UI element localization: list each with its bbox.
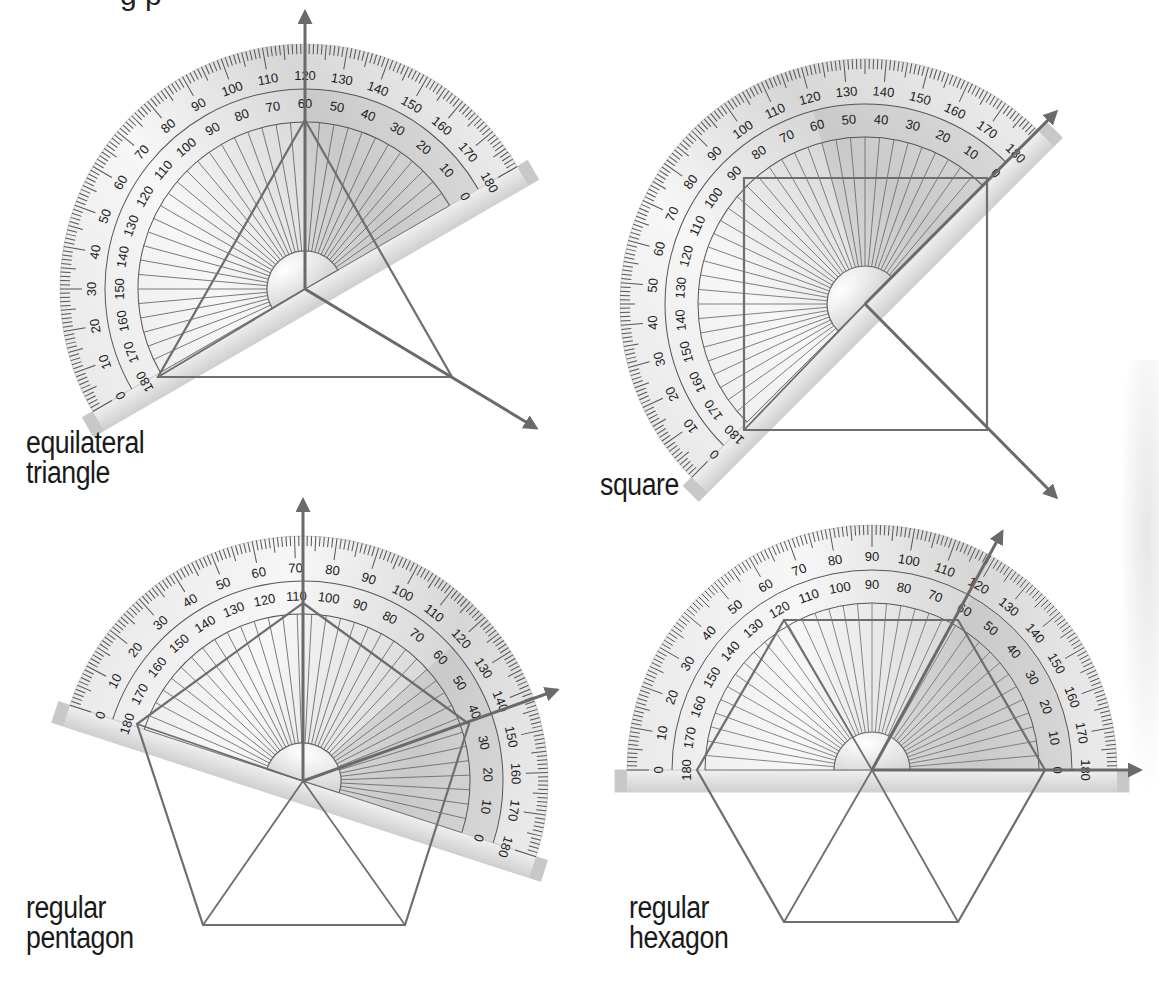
arrow-ray-b bbox=[865, 304, 1056, 497]
center-spoke bbox=[203, 781, 303, 925]
outer-scale-label: 50 bbox=[645, 278, 661, 294]
panel-regular-hexagon: 0102030405060708090100110120130140150160… bbox=[615, 525, 1140, 922]
label-line: equilateral bbox=[26, 428, 144, 458]
protractor: 0102030405060708090100110120130140150160… bbox=[510, 0, 1062, 501]
protractor: 0102030405060708090100110120130140150160… bbox=[0, 0, 539, 437]
label-equilateral-triangle: equilateraltriangle bbox=[26, 428, 144, 488]
inner-scale-label: 100 bbox=[317, 589, 341, 607]
outer-scale-label: 160 bbox=[508, 762, 524, 784]
label-line: triangle bbox=[26, 458, 144, 488]
inner-scale-label: 70 bbox=[264, 98, 281, 115]
paper-texture bbox=[1119, 360, 1159, 800]
panel-square: 0102030405060708090100110120130140150160… bbox=[510, 0, 1062, 501]
label-regular-pentagon: regularpentagon bbox=[26, 893, 134, 953]
inner-scale-label: 180 bbox=[679, 759, 694, 781]
outer-scale-label: 60 bbox=[250, 564, 267, 582]
outer-scale-label: 20 bbox=[87, 318, 104, 335]
outer-scale-label: 30 bbox=[84, 282, 99, 296]
outer-scale-label: 80 bbox=[827, 552, 844, 569]
protractor: 0102030405060708090100110120130140150160… bbox=[52, 469, 623, 882]
outer-scale-label: 90 bbox=[865, 549, 879, 564]
inner-scale-label: 40 bbox=[873, 112, 889, 128]
inner-scale-label: 50 bbox=[841, 112, 857, 128]
inner-scale-label: 150 bbox=[112, 278, 127, 300]
outer-scale-label: 140 bbox=[872, 83, 895, 100]
panel-regular-pentagon: 0102030405060708090100110120130140150160… bbox=[52, 469, 623, 925]
outer-scale-label: 130 bbox=[835, 83, 858, 100]
label-line: hexagon bbox=[629, 923, 728, 953]
outer-scale-label: 10 bbox=[654, 725, 671, 742]
label-line: pentagon bbox=[26, 923, 134, 953]
center-spoke bbox=[872, 770, 958, 922]
panel-equilateral-triangle: 0102030405060708090100110120130140150160… bbox=[0, 0, 539, 437]
inner-scale-label: 130 bbox=[672, 276, 689, 299]
outer-scale-label: 40 bbox=[645, 315, 661, 331]
center-spoke bbox=[784, 770, 872, 922]
inner-scale-label: 10 bbox=[478, 799, 495, 815]
inner-scale-label: 30 bbox=[475, 734, 493, 751]
inner-scale-label: 80 bbox=[896, 579, 913, 596]
inner-scale-label: 10 bbox=[1046, 729, 1063, 746]
inner-scale-label: 140 bbox=[672, 309, 689, 332]
label-line: regular bbox=[26, 893, 134, 923]
label-regular-hexagon: regularhexagon bbox=[629, 893, 728, 953]
protractor: 0102030405060708090100110120130140150160… bbox=[615, 525, 1129, 792]
outer-scale-label: 0 bbox=[651, 766, 666, 773]
arrow-ray-b bbox=[305, 289, 536, 428]
outer-scale-label: 40 bbox=[87, 244, 104, 261]
label-line: regular bbox=[629, 893, 728, 923]
outer-scale-label: 80 bbox=[324, 562, 340, 579]
label-square: square bbox=[600, 470, 679, 500]
outer-scale-label: 170 bbox=[505, 799, 523, 823]
inner-scale-label: 50 bbox=[329, 98, 346, 115]
label-line: square bbox=[600, 470, 679, 500]
inner-scale-label: 20 bbox=[480, 767, 495, 782]
inner-scale-label: 90 bbox=[865, 577, 879, 592]
outer-scale-label: 70 bbox=[288, 560, 303, 575]
diagram-canvas: 0102030405060708090100110120130140150160… bbox=[0, 0, 1159, 983]
